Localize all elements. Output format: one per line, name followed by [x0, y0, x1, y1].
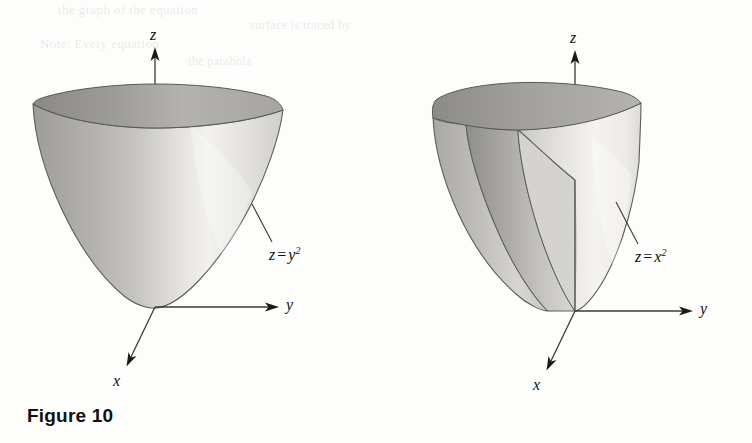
- figure-11-equation-operator: =: [641, 248, 654, 265]
- figure-11-y-axis: [575, 307, 693, 316]
- figure-11-panel: z y x z=x2 Figure 11: [376, 0, 752, 443]
- figure-10-x-axis-label: x: [113, 372, 120, 390]
- figure-10-equation-operator: =: [275, 246, 288, 263]
- figure-11-y-axis-label: y: [700, 300, 707, 318]
- figure-11-equation-label: z=x2: [635, 248, 666, 266]
- figure-10-z-axis-label: z: [150, 26, 156, 44]
- figure-11-z-axis-label: z: [570, 29, 576, 47]
- figure-11-x-axis-label: x: [533, 376, 540, 394]
- figure-10-leader-line: [252, 204, 272, 242]
- figure-10-x-axis: [127, 307, 156, 367]
- figure-11-illustration: [376, 0, 752, 443]
- figure-11-equation-exponent: 2: [661, 247, 666, 258]
- figure-10-equation-exponent: 2: [295, 245, 300, 256]
- figure-10-caption: Figure 10: [27, 405, 113, 427]
- figure-11-x-axis: [547, 311, 576, 371]
- figure-10-y-axis: [155, 303, 279, 312]
- figure-page: the graph of the equation surface is tra…: [0, 0, 752, 443]
- figure-10-panel: z y x z=y2 Figure 10: [0, 0, 376, 443]
- figure-10-illustration: [0, 0, 376, 443]
- figure-10-y-axis-label: y: [286, 296, 293, 314]
- figure-10-equation-label: z=y2: [269, 246, 300, 264]
